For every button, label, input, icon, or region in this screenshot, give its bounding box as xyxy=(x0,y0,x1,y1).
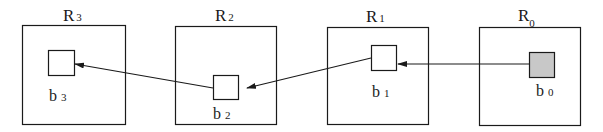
region-r0-title: R0 xyxy=(518,6,535,29)
block-b1 xyxy=(372,46,397,71)
region-r1-title: R1 xyxy=(366,7,385,26)
block-b2 xyxy=(214,76,239,100)
region-r1-box xyxy=(328,28,429,125)
region-r2: R2 b2 xyxy=(176,6,277,125)
block-b0 xyxy=(530,53,555,78)
region-r2-title: R2 xyxy=(215,6,234,25)
region-r3: R3 b3 xyxy=(23,6,126,125)
region-r1: R1 b1 xyxy=(328,7,429,125)
block-b3 xyxy=(49,51,75,76)
block-chain-diagram: R3 b3 R2 b2 R1 b1 R0 b0 xyxy=(0,0,603,132)
region-r0: R0 b0 xyxy=(480,6,581,126)
region-r3-title: R3 xyxy=(63,6,82,25)
